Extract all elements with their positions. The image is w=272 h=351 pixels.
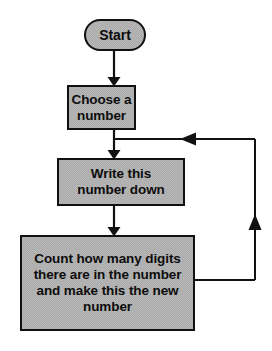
connector-write-to-count	[108, 206, 121, 237]
node-count-how-many-digits[interactable]: Count how many digits there are in the n…	[20, 235, 195, 331]
node-count-how-many-digits-label: Count how many digits there are in the n…	[22, 251, 193, 315]
node-start-label: Start	[86, 27, 144, 44]
node-write-this-number-down-label: Write this number down	[59, 166, 183, 198]
node-write-this-number-down[interactable]: Write this number down	[57, 158, 185, 206]
node-choose-a-number-label: Choose a number	[69, 92, 134, 124]
arrowhead-left-icon	[180, 133, 196, 146]
flowchart-canvas: Start Choose a number Write this number …	[0, 0, 272, 351]
node-choose-a-number[interactable]: Choose a number	[67, 85, 136, 130]
arrowhead-up-icon	[249, 214, 262, 230]
connector-choose-to-write	[108, 130, 121, 160]
node-start[interactable]: Start	[84, 19, 146, 51]
connector-start-to-choose	[108, 51, 121, 87]
